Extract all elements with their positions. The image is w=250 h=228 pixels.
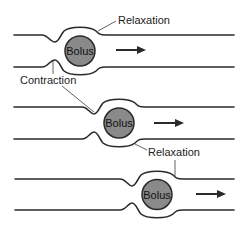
panel-1: Bolus Relaxation bbox=[14, 14, 234, 75]
panel-2-right-arrow-icon bbox=[154, 119, 184, 127]
panel-2: Bolus Relaxation bbox=[14, 99, 234, 158]
panel-2-relaxation-leader bbox=[135, 144, 147, 150]
panel-3-top-wall bbox=[15, 171, 234, 186]
panel-3: Bolus bbox=[15, 160, 234, 218]
contraction-label: Contraction bbox=[20, 74, 76, 86]
panel-2-bolus-label: Bolus bbox=[105, 117, 133, 129]
panel-3-bottom-wall bbox=[15, 203, 234, 218]
panel-1-relaxation-leader bbox=[98, 21, 116, 31]
panel-2-relaxation-label: Relaxation bbox=[148, 146, 200, 158]
contraction-leader-panel-2 bbox=[62, 86, 94, 112]
panel-3-right-arrow-icon bbox=[196, 190, 226, 198]
panel-1-bolus-label: Bolus bbox=[66, 45, 94, 57]
panel-1-bottom-wall bbox=[14, 60, 234, 75]
contraction-callout: Contraction bbox=[20, 61, 94, 112]
panel-3-bolus-label: Bolus bbox=[143, 189, 171, 201]
panel-1-right-arrow-icon bbox=[116, 46, 146, 54]
panel-1-relaxation-label: Relaxation bbox=[118, 14, 170, 26]
peristalsis-diagram: Bolus Relaxation Contraction Bolus Relax… bbox=[0, 0, 250, 228]
panel-1-top-wall bbox=[14, 27, 234, 42]
